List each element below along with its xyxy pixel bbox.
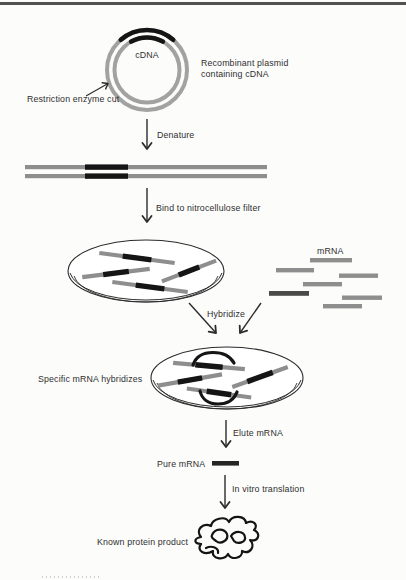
specific-mrna-bar	[269, 291, 309, 296]
elute-step-label: Elute mRNA	[233, 428, 283, 439]
mrna-bar	[310, 258, 352, 262]
denatured-dna-strand-bottom	[25, 174, 267, 178]
plasmid-inner-ring	[115, 38, 180, 103]
cropped-text-fragment	[42, 576, 100, 578]
pure-mrna-label: Pure mRNA	[157, 459, 205, 470]
mrna-pool-label: mRNA	[317, 246, 344, 257]
bind-step-label: Bind to nitrocellulose filter	[156, 203, 261, 214]
restriction-cut-label: Restriction enzyme cut	[27, 94, 119, 105]
protein-squiggle	[195, 517, 258, 558]
denature-step-label: Denature	[157, 130, 194, 141]
denatured-dna-strands	[25, 164, 267, 178]
denatured-strand-bottom-cdna-segment	[85, 173, 128, 178]
pure-mrna-bar	[212, 461, 239, 466]
hybridize-step-label: Hybridize	[207, 309, 245, 320]
diagram-page: cDNA Recombinant plasmid containing cDNA…	[0, 0, 406, 580]
translation-step-label: In vitro translation	[232, 484, 304, 495]
nitrocellulose-filter-2	[151, 347, 303, 409]
specific-mrna-label: Specific mRNA hybridizes	[38, 374, 142, 385]
mrna-bar	[339, 274, 378, 278]
mrna-bar	[342, 296, 382, 300]
mrna-bar	[303, 282, 342, 286]
cdna-insert-label: cDNA	[129, 50, 165, 61]
diagram-graphics	[0, 0, 406, 580]
denatured-dna-strand-top	[25, 165, 267, 169]
nitrocellulose-filter-1	[68, 240, 224, 302]
mrna-bar	[276, 268, 314, 272]
plasmid-caption: Recombinant plasmid containing cDNA	[201, 58, 297, 80]
mrna-bar	[323, 304, 362, 308]
protein-product-label: Known protein product	[97, 537, 188, 548]
denatured-strand-top-cdna-segment	[85, 164, 128, 169]
cdna-insert-arc-inner	[131, 38, 163, 42]
mrna-pool	[269, 258, 382, 308]
